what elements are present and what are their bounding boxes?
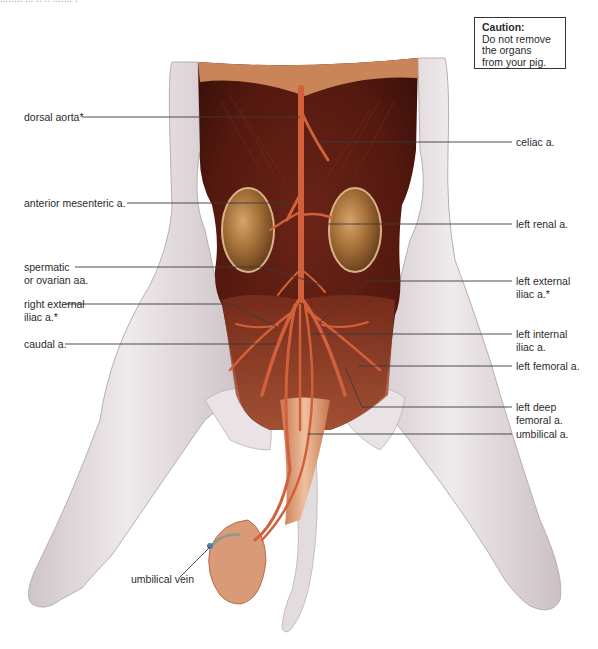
label-dorsal-aorta: dorsal aorta*	[24, 111, 84, 124]
label-left-internal-iliac-1: left internal	[516, 328, 567, 341]
label-left-external-iliac-1: left external	[516, 275, 570, 288]
label-celiac: celiac a.	[516, 136, 555, 149]
label-left-renal: left renal a.	[516, 218, 568, 231]
label-umbilical-vein: umbilical vein	[131, 573, 194, 586]
label-spermatic-ovarian-2: or ovarian aa.	[24, 274, 88, 287]
caution-line-3: from your pig.	[482, 57, 565, 69]
caution-line-2: the organs	[482, 45, 565, 57]
umbilical-stump	[209, 520, 266, 604]
umbilical-vein-tip	[207, 543, 213, 549]
caution-box: Caution: Do not remove the organs from y…	[474, 17, 566, 69]
label-caudal: caudal a.	[24, 338, 67, 351]
label-left-deep-femoral-1: left deep	[516, 401, 556, 414]
label-left-external-iliac-2: iliac a.*	[516, 288, 550, 301]
label-umbilical-a: umbilical a.	[516, 428, 569, 441]
label-left-deep-femoral-2: femoral a.	[516, 414, 563, 427]
pig-illustration	[0, 0, 598, 649]
label-spermatic-ovarian-1: spermatic	[24, 261, 70, 274]
label-anterior-mesenteric: anterior mesenteric a.	[24, 197, 126, 210]
label-left-internal-iliac-2: iliac a.	[516, 341, 546, 354]
caution-title: Caution:	[482, 22, 565, 34]
pig-arterial-diagram: ........ ... .. .. ....... .	[0, 0, 598, 649]
label-right-external-iliac-1: right external	[24, 298, 85, 311]
label-right-external-iliac-2: iliac a.*	[24, 311, 58, 324]
label-left-femoral: left femoral a.	[516, 360, 580, 373]
